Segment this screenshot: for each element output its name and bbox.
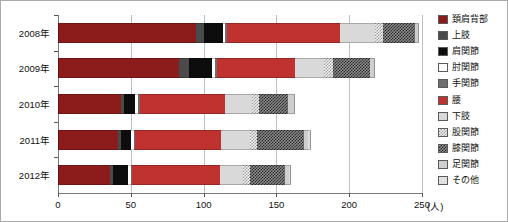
x-axis-tick-0 <box>58 193 59 197</box>
legend-swatch-icon <box>438 96 448 105</box>
bar-segment-膝関節[interactable] <box>383 23 415 43</box>
bar-segment-肩関節[interactable] <box>124 94 136 114</box>
legend-item-その他[interactable]: その他 <box>438 173 506 189</box>
bar-segment-肩関節[interactable] <box>204 23 223 43</box>
bar-segment-股関節[interactable] <box>252 94 259 114</box>
y-axis-label-2012: 2012年 <box>19 168 50 182</box>
chart-frame: 2008年2009年2010年2011年2012年 05010015020025… <box>0 0 508 222</box>
bar-segment-肩関節[interactable] <box>121 130 131 150</box>
bar-segment-肩関節[interactable] <box>113 165 128 185</box>
x-axis-tick-label-150: 150 <box>268 199 284 210</box>
legend-swatch-icon <box>438 79 448 88</box>
bar-segment-頚肩背部[interactable] <box>58 94 121 114</box>
bar-segment-その他[interactable] <box>308 130 311 150</box>
legend-item-手関節[interactable]: 手関節 <box>438 76 506 92</box>
bar-segment-その他[interactable] <box>418 23 419 43</box>
legend-item-肩関節[interactable]: 肩関節 <box>438 43 506 59</box>
legend-label: 膝関節 <box>452 144 479 153</box>
x-axis-unit-label: (人) <box>427 199 443 213</box>
bar-row <box>58 86 422 122</box>
legend-swatch-icon <box>438 176 448 185</box>
bar-segment-腰[interactable] <box>135 130 221 150</box>
legend-swatch-icon <box>438 31 448 40</box>
bar-segment-腰[interactable] <box>132 165 219 185</box>
x-axis-tick-label-50: 50 <box>126 199 137 210</box>
bar-row <box>58 157 422 193</box>
bar-segment-股関節[interactable] <box>324 58 333 78</box>
bar-row <box>58 15 422 51</box>
legend-label: 肩関節 <box>452 47 479 56</box>
x-axis-tick-200 <box>349 193 350 197</box>
y-axis-label-2010: 2010年 <box>19 97 50 111</box>
legend-label: 肘関節 <box>452 63 479 72</box>
legend-label: 下肢 <box>452 112 470 121</box>
legend-swatch-icon <box>438 15 448 24</box>
y-axis-label-2011: 2011年 <box>20 133 50 147</box>
bar-segment-肩関節[interactable] <box>189 58 212 78</box>
bar-row <box>58 51 422 87</box>
x-axis-tick-label-200: 200 <box>341 199 357 210</box>
bar-segment-股関節[interactable] <box>243 165 250 185</box>
x-axis-tick-label-100: 100 <box>196 199 212 210</box>
legend-item-頚肩背部[interactable]: 頚肩背部 <box>438 11 506 27</box>
bar-segment-膝関節[interactable] <box>257 130 304 150</box>
x-axis-tick-label-0: 0 <box>55 199 60 210</box>
legend-label: その他 <box>452 176 479 185</box>
stacked-bar-2010[interactable] <box>58 94 295 114</box>
bar-segment-その他[interactable] <box>374 58 375 78</box>
bar-segment-膝関節[interactable] <box>333 58 369 78</box>
bar-segment-上肢[interactable] <box>179 58 189 78</box>
bar-segment-上肢[interactable] <box>196 23 203 43</box>
x-axis-tick-250 <box>422 193 423 197</box>
stacked-bar-2008[interactable] <box>58 23 419 43</box>
legend-swatch-icon <box>438 63 448 72</box>
bar-segment-腰[interactable] <box>217 58 296 78</box>
bar-segment-腰[interactable] <box>227 23 341 43</box>
bar-segment-頚肩背部[interactable] <box>58 58 179 78</box>
legend-item-膝関節[interactable]: 膝関節 <box>438 141 506 157</box>
stacked-bar-2009[interactable] <box>58 58 375 78</box>
legend-item-股関節[interactable]: 股関節 <box>438 124 506 140</box>
bar-segment-その他[interactable] <box>294 94 295 114</box>
stacked-bar-2011[interactable] <box>58 130 311 150</box>
bar-segment-頚肩背部[interactable] <box>58 23 196 43</box>
legend-item-腰[interactable]: 腰 <box>438 92 506 108</box>
bar-segment-股関節[interactable] <box>250 130 257 150</box>
bar-segment-下肢[interactable] <box>225 94 251 114</box>
legend-label: 足関節 <box>452 160 479 169</box>
legend-label: 腰 <box>452 96 461 105</box>
legend-swatch-icon <box>438 47 448 56</box>
legend-item-上肢[interactable]: 上肢 <box>438 27 506 43</box>
x-axis-tick-50 <box>131 193 132 197</box>
x-axis-line <box>58 193 422 194</box>
x-axis-tick-150 <box>276 193 277 197</box>
legend-label: 上肢 <box>452 31 470 40</box>
bar-segment-下肢[interactable] <box>221 130 250 150</box>
legend-label: 手関節 <box>452 79 479 88</box>
legend-swatch-icon <box>438 128 448 137</box>
x-axis-tick-100 <box>204 193 205 197</box>
bar-segment-その他[interactable] <box>289 165 290 185</box>
legend-item-肘関節[interactable]: 肘関節 <box>438 60 506 76</box>
bar-segment-下肢[interactable] <box>220 165 243 185</box>
legend-swatch-icon <box>438 112 448 121</box>
y-axis-label-2009: 2009年 <box>19 61 50 75</box>
bar-segment-下肢[interactable] <box>340 23 375 43</box>
bar-segment-腰[interactable] <box>140 94 226 114</box>
bar-segment-頚肩背部[interactable] <box>58 130 118 150</box>
bar-row <box>58 122 422 158</box>
stacked-bar-2012[interactable] <box>58 165 291 185</box>
bar-segment-膝関節[interactable] <box>250 165 285 185</box>
gridline-250 <box>422 15 423 193</box>
legend-item-下肢[interactable]: 下肢 <box>438 108 506 124</box>
y-axis-label-2008: 2008年 <box>19 26 50 40</box>
legend-label: 頚肩背部 <box>452 15 488 24</box>
legend-item-足関節[interactable]: 足関節 <box>438 157 506 173</box>
chart-legend: 頚肩背部上肢肩関節肘関節手関節腰下肢股関節膝関節足関節その他 <box>438 11 506 189</box>
bar-segment-股関節[interactable] <box>375 23 382 43</box>
bar-segment-頚肩背部[interactable] <box>58 165 110 185</box>
bar-segment-下肢[interactable] <box>295 58 324 78</box>
y-axis-category-labels: 2008年2009年2010年2011年2012年 <box>1 15 58 193</box>
bar-segment-膝関節[interactable] <box>259 94 288 114</box>
legend-swatch-icon <box>438 144 448 153</box>
